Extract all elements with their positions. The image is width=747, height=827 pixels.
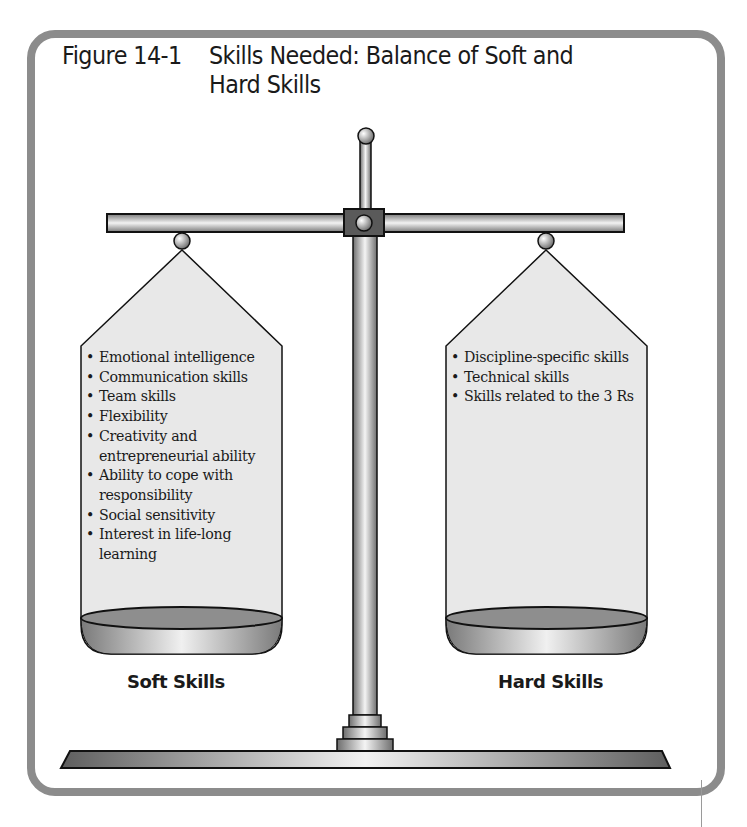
list-item: Ability to cope with responsibility xyxy=(86,466,282,505)
list-item: Interest in life-long learning xyxy=(86,525,282,564)
soft-skills-list: Emotional intelligence Communication ski… xyxy=(86,348,282,565)
hard-skills-label: Hard Skills xyxy=(498,671,603,692)
list-item: Discipline-specific skills xyxy=(451,348,647,368)
list-item: Social sensitivity xyxy=(86,506,282,526)
margin-rule xyxy=(701,780,702,827)
pivot-block xyxy=(344,209,384,236)
list-item: Skills related to the 3 Rs xyxy=(451,387,647,407)
list-item: Creativity and entrepreneurial ability xyxy=(86,427,282,466)
list-item: Emotional intelligence xyxy=(86,348,282,368)
main-pole xyxy=(353,230,377,715)
hard-skills-list: Discipline-specific skills Technical ski… xyxy=(451,348,647,407)
list-item: Communication skills xyxy=(86,368,282,388)
list-item: Flexibility xyxy=(86,407,282,427)
top-finial xyxy=(358,128,374,211)
list-item: Technical skills xyxy=(451,368,647,388)
list-item: Team skills xyxy=(86,387,282,407)
stepped-base xyxy=(61,715,670,768)
soft-skills-label: Soft Skills xyxy=(127,671,225,692)
right-pan xyxy=(446,233,647,654)
